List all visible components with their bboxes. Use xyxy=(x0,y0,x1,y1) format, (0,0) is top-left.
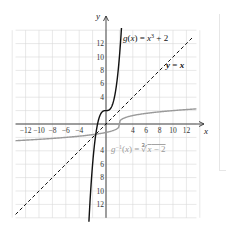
x-tick-label: 4 xyxy=(131,126,135,135)
y-tick-label: 10 xyxy=(97,187,105,196)
x-tick-label: 6 xyxy=(144,126,148,135)
function-inverse-chart: −12−10−8−6−4468101212108644681012 y x g(… xyxy=(0,0,226,234)
x-tick-label: −10 xyxy=(33,126,45,135)
x-tick-label: −12 xyxy=(20,126,32,135)
y-tick-label: 4 xyxy=(100,93,104,102)
y-tick-label: 12 xyxy=(97,200,105,209)
x-axis-label: x xyxy=(203,126,208,136)
y-axis-label: y xyxy=(95,11,100,21)
identity-line-label: y = x xyxy=(165,60,185,70)
y-tick-label: 8 xyxy=(100,66,104,75)
x-tick-label: −4 xyxy=(75,126,83,135)
g-function-label: g(x) = x3 + 2 xyxy=(123,33,168,43)
x-tick-label: 12 xyxy=(183,126,191,135)
y-tick-label: 8 xyxy=(100,173,104,182)
y-tick-label: 12 xyxy=(97,39,105,48)
side-panel xyxy=(219,14,226,171)
y-tick-label: 6 xyxy=(100,160,104,169)
y-tick-label: 6 xyxy=(100,79,104,88)
x-tick-label: 8 xyxy=(158,126,162,135)
x-tick-label: −6 xyxy=(62,126,70,135)
x-tick-label: 10 xyxy=(169,126,177,135)
y-tick-label: 10 xyxy=(97,53,105,62)
x-tick-label: −8 xyxy=(48,126,56,135)
axes xyxy=(16,16,204,218)
y-tick-label: 4 xyxy=(100,146,104,155)
